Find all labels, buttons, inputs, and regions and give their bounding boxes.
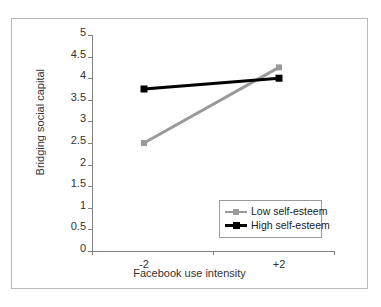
x-tick-mark xyxy=(334,251,335,255)
y-axis-title: Bridging social capital xyxy=(34,69,48,175)
legend-swatch-icon xyxy=(225,220,247,231)
series-line xyxy=(144,78,279,89)
y-tick-label: 0.5 xyxy=(71,221,86,232)
chart-frame: Bridging social capital 00.511.522.533.5… xyxy=(11,18,368,289)
y-tick-label: 5 xyxy=(80,27,86,38)
legend-item-low-self-esteem: Low self-esteem xyxy=(225,205,316,218)
y-tick-label: 2.5 xyxy=(71,135,86,146)
legend-label-high-self-esteem: High self-esteem xyxy=(251,220,330,231)
legend-item-high-self-esteem: High self-esteem xyxy=(225,219,316,232)
y-tick-label: 0 xyxy=(80,243,86,254)
x-axis-title: Facebook use intensity xyxy=(12,267,367,279)
data-point-marker xyxy=(276,75,283,82)
chart-legend: Low self-esteem High self-esteem xyxy=(219,200,322,238)
y-tick-label: 1 xyxy=(80,200,86,211)
y-tick-label: 2 xyxy=(80,157,86,168)
series-low-self-esteem xyxy=(141,64,282,146)
y-tick-label: 4.5 xyxy=(71,49,86,60)
legend-label-low-self-esteem: Low self-esteem xyxy=(251,206,327,217)
data-point-marker xyxy=(141,86,148,93)
y-tick-label: 1.5 xyxy=(71,178,86,189)
y-tick-label: 3 xyxy=(80,113,86,124)
y-tick-label: 4 xyxy=(80,70,86,81)
legend-swatch-icon xyxy=(225,206,247,217)
data-point-marker xyxy=(141,140,147,146)
data-point-marker xyxy=(276,64,282,70)
y-tick-label: 3.5 xyxy=(71,92,86,103)
